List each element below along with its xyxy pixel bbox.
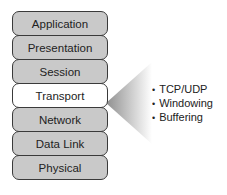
callout-item: Windowing [152, 97, 213, 111]
layer-label: Network [39, 114, 81, 126]
layer-label: Transport [36, 90, 85, 102]
callout-item: TCP/UDP [152, 83, 213, 97]
layer-label: Presentation [28, 42, 93, 54]
layer-network: Network [12, 107, 108, 132]
layer-session: Session [12, 59, 108, 84]
layer-label: Session [40, 66, 81, 78]
layer-label: Application [32, 18, 88, 30]
layer-presentation: Presentation [12, 35, 108, 60]
osi-layer-stack: Application Presentation Session Transpo… [12, 11, 108, 180]
layer-label: Data Link [36, 138, 85, 150]
layer-physical: Physical [12, 155, 108, 180]
callout-item: Buffering [152, 111, 213, 125]
layer-label: Physical [39, 162, 82, 174]
layer-data-link: Data Link [12, 131, 108, 156]
callout-cone [106, 62, 152, 144]
layer-transport: Transport [12, 83, 108, 108]
callout-list: TCP/UDP Windowing Buffering [152, 83, 213, 125]
layer-application: Application [12, 11, 108, 36]
